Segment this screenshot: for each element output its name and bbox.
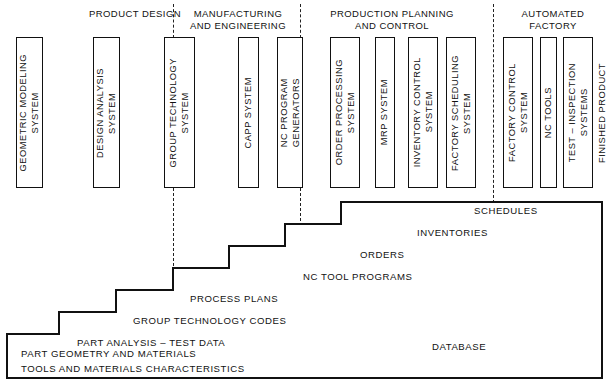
box-geometric-modeling-system[interactable]: GEOMETRIC MODELING SYSTEM (16, 37, 43, 188)
box-factory-control-system[interactable]: FACTORY CONTROL SYSTEM (503, 37, 533, 188)
box-order-processing-system[interactable]: ORDER PROCESSING SYSTEM (330, 37, 360, 188)
tier-label-nc-tool-programs: NC TOOL PROGRAMS (303, 271, 412, 282)
box-group-technology-system[interactable]: GROUP TECHNOLOGY SYSTEM (164, 37, 195, 188)
box-label: GEOMETRIC MODELING SYSTEM (18, 54, 41, 171)
box-mrp-system[interactable]: MRP SYSTEM (375, 37, 395, 188)
section-title-production-planning-control: PRODUCTION PLANNING AND CONTROL (312, 8, 472, 31)
box-label: FACTORY CONTROL SYSTEM (507, 63, 530, 162)
box-label: NC TOOLS (543, 87, 555, 138)
box-label: CAPP SYSTEM (243, 77, 255, 148)
box-label: DESIGN ANALYSIS SYSTEM (95, 68, 118, 158)
box-label: NC PROGRAM GENERATORS (279, 78, 302, 147)
box-capp-system[interactable]: CAPP SYSTEM (238, 37, 259, 188)
tier-label-group-technology-codes: GROUP TECHNOLOGY CODES (133, 315, 286, 326)
label-finished-product: FINISHED PRODUCT (594, 37, 611, 188)
tier-label-process-plans: PROCESS PLANS (190, 293, 278, 304)
box-factory-scheduling-system[interactable]: FACTORY SCHEDULING SYSTEM (446, 37, 476, 188)
divider-manufacturing-top (173, 4, 174, 38)
section-title-manufacturing-engineering: MANUFACTURING AND ENGINEERING (178, 8, 298, 31)
box-nc-program-generators[interactable]: NC PROGRAM GENERATORS (277, 37, 303, 188)
tier-label-part-geometry-and-materials: PART GEOMETRY AND MATERIALS (21, 348, 196, 359)
box-label: INVENTORY CONTROL SYSTEM (412, 57, 435, 167)
tier-label-schedules: SCHEDULES (474, 205, 538, 216)
box-test-inspection-systems[interactable]: TEST – INSPECTION SYSTEMS (563, 37, 593, 188)
tier-label-inventories: INVENTORIES (417, 227, 488, 238)
box-design-analysis-system[interactable]: DESIGN ANALYSIS SYSTEM (93, 37, 120, 188)
tier-label-part-analysis-test-data: PART ANALYSIS – TEST DATA (77, 337, 225, 348)
cim-architecture-diagram: PRODUCT DESIGN MANUFACTURING AND ENGINEE… (0, 0, 611, 392)
database-label: DATABASE (432, 341, 486, 352)
box-label: GROUP TECHNOLOGY SYSTEM (168, 58, 191, 167)
tier-label-tools-and-materials-characteristics: TOOLS AND MATERIALS CHARACTERISTICS (21, 363, 245, 374)
divider-production-bottom (300, 188, 301, 246)
box-inventory-control-system[interactable]: INVENTORY CONTROL SYSTEM (408, 37, 438, 188)
box-label: FACTORY SCHEDULING SYSTEM (450, 55, 473, 171)
plain-label-text: FINISHED PRODUCT (597, 63, 609, 163)
box-label: ORDER PROCESSING SYSTEM (334, 59, 357, 165)
box-label: MRP SYSTEM (379, 79, 391, 145)
divider-manufacturing-bottom (173, 188, 174, 291)
box-nc-tools[interactable]: NC TOOLS (540, 37, 557, 188)
box-label: TEST – INSPECTION SYSTEMS (567, 63, 590, 162)
section-title-automated-factory: AUTOMATED FACTORY (505, 8, 601, 31)
divider-automated-factory (493, 4, 494, 203)
divider-production-top (300, 4, 301, 38)
tier-label-orders: ORDERS (360, 249, 404, 260)
